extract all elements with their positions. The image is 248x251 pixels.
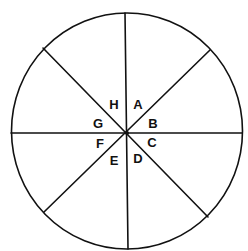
sector-label-c: C	[147, 135, 157, 150]
sector-label-d: D	[133, 151, 142, 166]
sector-diagram: A B C D E F G H	[0, 0, 248, 251]
sector-label-f: F	[96, 136, 104, 151]
sector-label-b: B	[148, 116, 157, 131]
sector-label-e: E	[110, 153, 119, 168]
center-point	[125, 131, 129, 135]
sector-label-h: H	[109, 97, 118, 112]
sector-label-g: G	[93, 116, 103, 131]
sector-label-a: A	[133, 97, 143, 112]
